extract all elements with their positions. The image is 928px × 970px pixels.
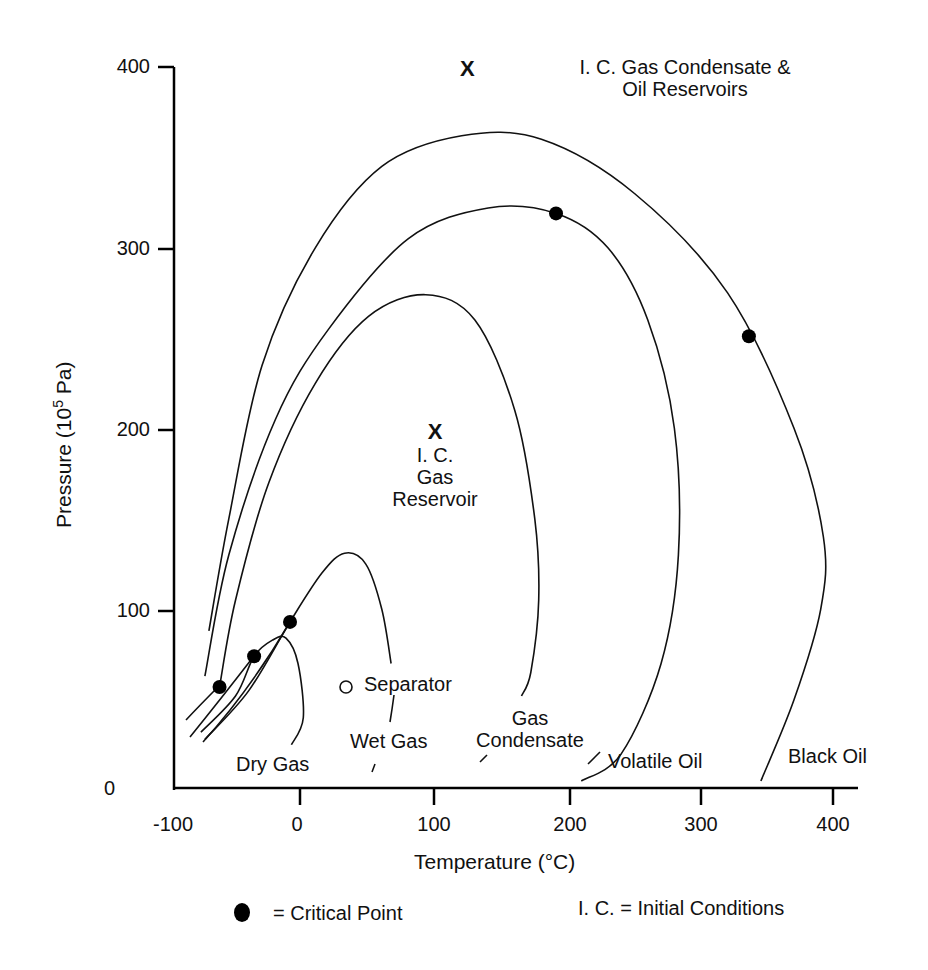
x-tick-neg100: -100 <box>138 813 208 836</box>
gas-condensate-envelope <box>220 295 539 696</box>
y-tick-400: 400 <box>90 55 150 78</box>
dry-gas-label: Dry Gas <box>236 753 309 775</box>
critical-point-marker <box>247 649 261 663</box>
black-oil-label: Black Oil <box>788 745 867 767</box>
x-tick-300: 300 <box>666 813 736 836</box>
critical-point-marker <box>742 329 756 343</box>
x-axis-label: Temperature (°C) <box>414 850 575 873</box>
critical-point-legend-label: = Critical Point <box>273 902 403 924</box>
x-tick-400: 400 <box>798 813 868 836</box>
volatile-oil-label: Volatile Oil <box>608 750 703 772</box>
separator-marker <box>340 681 352 693</box>
ic-top-label: I. C. Gas Condensate & Oil Reservoirs <box>550 56 820 100</box>
y-tick-300: 300 <box>90 237 150 260</box>
x-tick-0: 0 <box>262 813 332 836</box>
gas-condensate-label: Gas Condensate <box>460 707 600 751</box>
tick-volatile <box>588 752 600 764</box>
wet-gas-label: Wet Gas <box>350 730 427 752</box>
ic-marker-top: X <box>460 57 475 81</box>
x-tick-100: 100 <box>399 813 469 836</box>
axes <box>158 67 858 805</box>
wet-gas-envelope <box>205 553 391 740</box>
y-tick-0: 0 <box>55 777 115 800</box>
dew-line-lower <box>186 687 218 720</box>
tick-condensate <box>480 755 487 762</box>
y-tick-100: 100 <box>90 599 150 622</box>
critical-point-legend-icon <box>234 903 250 922</box>
wet-gas-tail <box>390 695 394 722</box>
ic-gas-reservoir-label: X I. C. Gas Reservoir <box>385 420 485 510</box>
initial-conditions-legend-label: I. C. = Initial Conditions <box>578 897 784 919</box>
critical-point-marker <box>549 206 563 220</box>
critical-point-marker <box>283 615 297 629</box>
phase-envelopes <box>201 132 826 781</box>
critical-point-marker <box>213 680 227 694</box>
y-tick-200: 200 <box>90 418 150 441</box>
x-tick-200: 200 <box>535 813 605 836</box>
y-axis-label: Pressure (105 Pa) <box>50 361 76 528</box>
separator-label: Separator <box>364 673 452 695</box>
tick-wet-gas <box>372 764 375 772</box>
